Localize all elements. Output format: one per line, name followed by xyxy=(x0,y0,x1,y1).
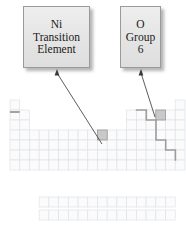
table-cell xyxy=(166,160,176,170)
f-block-cell xyxy=(117,210,127,220)
f-block-cell xyxy=(78,197,88,207)
callout-ni-line-2: Transition xyxy=(33,31,80,44)
highlighted-cell-ni xyxy=(97,130,107,140)
table-cell xyxy=(136,160,146,170)
f-block-cell xyxy=(49,210,59,220)
table-cell xyxy=(156,140,166,150)
table-cell xyxy=(39,150,49,160)
table-cell xyxy=(49,150,59,160)
table-cell xyxy=(88,150,98,160)
f-block-cell xyxy=(146,210,156,220)
table-cell xyxy=(166,110,176,120)
table-cell xyxy=(175,120,185,130)
table-cell xyxy=(127,160,137,170)
table-cell xyxy=(146,130,156,140)
table-cell xyxy=(88,130,98,140)
table-cell xyxy=(175,140,185,150)
f-block-cell xyxy=(68,210,78,220)
f-block-cell xyxy=(107,197,117,207)
table-cell xyxy=(156,150,166,160)
table-cell xyxy=(166,140,176,150)
table-cell xyxy=(127,150,137,160)
table-cell xyxy=(29,160,39,170)
table-cell xyxy=(166,130,176,140)
table-cell xyxy=(49,160,59,170)
table-cell xyxy=(20,130,30,140)
f-block-cell xyxy=(117,197,127,207)
callout-box-oxygen[interactable]: O Group 6 xyxy=(120,6,161,68)
table-cell xyxy=(68,160,78,170)
table-cell xyxy=(175,110,185,120)
callout-box-ni[interactable]: Ni Transition Element xyxy=(23,6,90,68)
table-cell xyxy=(39,130,49,140)
callout-oxygen-line-1: O xyxy=(136,18,144,31)
table-cell xyxy=(107,140,117,150)
table-cell xyxy=(107,160,117,170)
f-block-cell-group xyxy=(39,197,175,220)
f-block-cell xyxy=(59,210,69,220)
f-block-cell xyxy=(166,197,176,207)
table-cell xyxy=(146,110,156,120)
f-block-cell xyxy=(136,210,146,220)
table-cell xyxy=(156,120,166,130)
table-cell xyxy=(146,120,156,130)
table-cell xyxy=(29,150,39,160)
f-block-cell xyxy=(107,210,117,220)
table-cell xyxy=(136,150,146,160)
f-block-cell xyxy=(59,197,69,207)
table-cell xyxy=(136,120,146,130)
table-cell xyxy=(136,140,146,150)
table-cell xyxy=(20,160,30,170)
table-cell xyxy=(10,100,20,110)
table-cell xyxy=(59,130,69,140)
table-cell xyxy=(10,150,20,160)
callout-ni-line-1: Ni xyxy=(51,18,63,31)
table-cell xyxy=(20,120,30,130)
table-cell xyxy=(10,140,20,150)
table-cell xyxy=(127,140,137,150)
f-block-cell xyxy=(88,210,98,220)
table-cell xyxy=(97,140,107,150)
table-cell xyxy=(68,130,78,140)
callout-ni-line-3: Element xyxy=(37,43,75,56)
table-cell xyxy=(136,110,146,120)
table-cell xyxy=(117,140,127,150)
table-cell xyxy=(107,150,117,160)
callout-oxygen-line-2: Group xyxy=(126,31,155,44)
f-block-cell xyxy=(97,197,107,207)
f-block-cell xyxy=(39,210,49,220)
table-cell xyxy=(117,150,127,160)
table-cell xyxy=(29,130,39,140)
table-cell xyxy=(10,130,20,140)
table-cell xyxy=(156,130,166,140)
table-cell xyxy=(10,160,20,170)
table-cell xyxy=(78,150,88,160)
table-cell xyxy=(20,150,30,160)
table-cell xyxy=(10,120,20,130)
table-cell xyxy=(146,160,156,170)
table-cell xyxy=(20,110,30,120)
table-cell xyxy=(97,150,107,160)
highlighted-cell-o xyxy=(156,110,166,120)
table-cell xyxy=(78,160,88,170)
table-cell xyxy=(39,140,49,150)
table-cell xyxy=(166,150,176,160)
table-cell xyxy=(68,150,78,160)
f-block-cell xyxy=(127,197,137,207)
f-block-cell xyxy=(146,197,156,207)
table-cell xyxy=(107,130,117,140)
table-cell xyxy=(175,100,185,110)
f-block-cell xyxy=(97,210,107,220)
table-cell xyxy=(39,160,49,170)
table-cell xyxy=(175,130,185,140)
table-cell xyxy=(117,130,127,140)
table-cell xyxy=(175,160,185,170)
table-cell xyxy=(97,160,107,170)
f-block-cell xyxy=(78,210,88,220)
table-cell xyxy=(78,140,88,150)
table-cell xyxy=(156,160,166,170)
diagram-canvas: Ni Transition Element O Group 6 xyxy=(0,0,186,235)
table-cell xyxy=(127,120,137,130)
table-cell xyxy=(146,140,156,150)
f-block-cell xyxy=(49,197,59,207)
